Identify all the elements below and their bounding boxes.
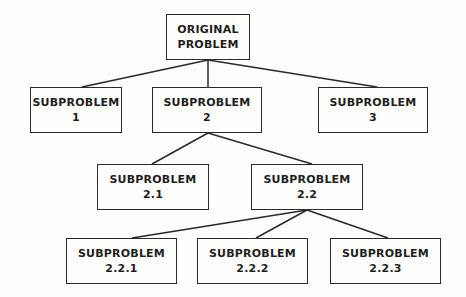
node-label-line2: 2.2 [297,187,317,202]
node-subproblem-2-1: SUBPROBLEM 2.1 [97,164,209,210]
node-label-line2: 1 [72,110,80,125]
node-label-line2: 2.2.3 [369,261,401,276]
node-subproblem-2-2-2: SUBPROBLEM 2.2.2 [197,238,308,284]
node-subproblem-2: SUBPROBLEM 2 [152,87,262,133]
node-subproblem-2-2-3: SUBPROBLEM 2.2.3 [330,238,441,284]
node-label-line2: 2.2.1 [105,261,137,276]
node-label-line1: SUBPROBLEM [164,95,251,110]
node-label-line1: SUBPROBLEM [264,172,351,187]
edge-sub2-to-sub2-1 [152,133,208,164]
node-label-line1: SUBPROBLEM [209,246,296,261]
node-label-line2: 2.2.2 [236,261,268,276]
node-label-line2: 2.1 [143,187,163,202]
edge-original-to-sub3 [208,60,377,87]
node-label-line1: SUBPROBLEM [33,95,120,110]
node-original-problem: ORIGINAL PROBLEM [166,14,250,60]
node-subproblem-1: SUBPROBLEM 1 [30,87,122,133]
edge-sub2-to-sub2-2 [208,133,312,164]
node-label-line2: 3 [369,110,377,125]
node-label-line2: 2 [203,110,211,125]
node-label-line1: ORIGINAL [177,22,238,37]
node-subproblem-3: SUBPROBLEM 3 [318,87,428,133]
node-label-line1: SUBPROBLEM [330,95,417,110]
node-subproblem-2-2: SUBPROBLEM 2.2 [251,164,363,210]
node-label-line1: SUBPROBLEM [110,172,197,187]
node-label-line1: SUBPROBLEM [342,246,429,261]
node-subproblem-2-2-1: SUBPROBLEM 2.2.1 [66,238,177,284]
edge-original-to-sub1 [82,60,208,87]
node-label-line1: SUBPROBLEM [78,246,165,261]
edge-sub2-2-to-sub2-2-3 [307,210,388,238]
node-label-line2: PROBLEM [177,37,238,52]
